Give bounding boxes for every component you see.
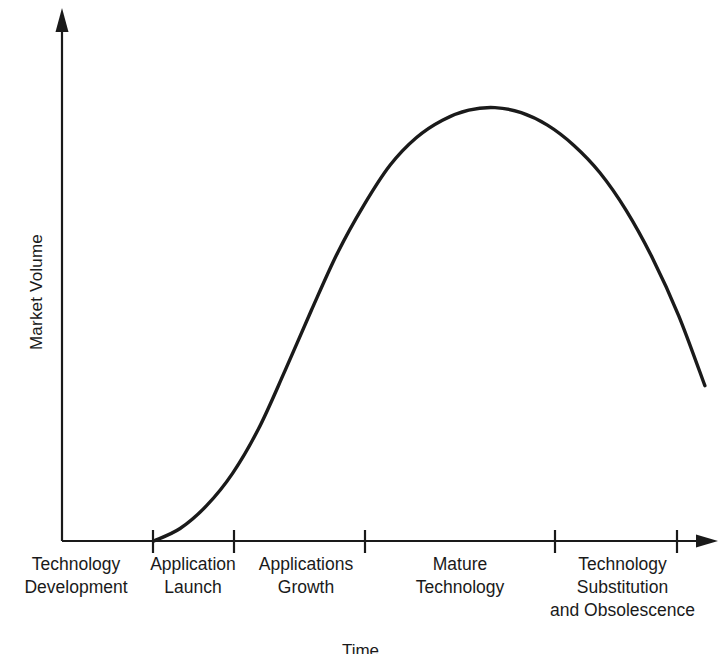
x-axis-title: Time	[0, 641, 721, 654]
y-axis-title: Market Volume	[27, 192, 47, 392]
stage-label-line-2: Technology	[396, 576, 524, 599]
y-axis-arrowhead	[56, 8, 69, 32]
stage-label-line-2: Development	[0, 576, 152, 599]
stage-label-line-1: Applications	[244, 553, 368, 576]
x-axis-arrowhead	[696, 535, 718, 548]
stage-label-line-3: and Obsolescence	[524, 599, 721, 622]
stage-label-line-2: Substitution	[524, 576, 721, 599]
stage-label-technology-substitution: Technology Substitution and Obsolescence	[524, 553, 721, 622]
stage-label-line-1: Technology	[0, 553, 152, 576]
stage-label-line-2: Launch	[132, 576, 254, 599]
stage-label-applications-growth: Applications Growth	[244, 553, 368, 599]
stage-label-group: Technology Development Application Launc…	[0, 553, 721, 653]
stage-label-line-1: Mature	[396, 553, 524, 576]
stage-label-application-launch: Application Launch	[132, 553, 254, 599]
market-volume-curve	[154, 108, 705, 541]
stage-label-line-1: Application	[132, 553, 254, 576]
stage-label-line-1: Technology	[524, 553, 721, 576]
stage-label-technology-development: Technology Development	[0, 553, 152, 599]
technology-life-cycle-chart: Market Volume Technology Development App…	[0, 0, 721, 654]
stage-label-line-2: Growth	[244, 576, 368, 599]
stage-label-mature-technology: Mature Technology	[396, 553, 524, 599]
